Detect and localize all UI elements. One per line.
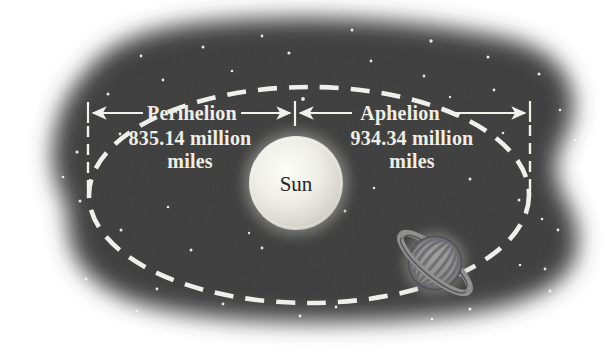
star — [493, 89, 496, 92]
star — [85, 278, 88, 281]
star — [541, 218, 544, 221]
aphelion-unit: miles — [389, 150, 434, 172]
star — [136, 310, 139, 313]
star — [544, 268, 547, 271]
aphelion-title: Aphelion — [360, 102, 439, 125]
star — [287, 51, 290, 54]
star — [370, 60, 373, 63]
star — [449, 96, 451, 98]
star — [469, 178, 472, 181]
star — [431, 318, 434, 321]
orbit-diagram: Sun Perihelion 835.14 million miles Aphe… — [0, 0, 612, 353]
star — [469, 308, 472, 311]
star — [574, 139, 576, 141]
star — [557, 229, 560, 232]
star — [119, 133, 122, 136]
star — [301, 97, 305, 101]
star — [261, 247, 264, 250]
star — [559, 109, 562, 112]
star — [162, 79, 165, 82]
star — [120, 229, 123, 232]
star — [549, 290, 552, 293]
star — [79, 200, 82, 203]
star — [248, 232, 250, 234]
star — [167, 206, 170, 209]
star — [231, 70, 234, 73]
star — [502, 132, 505, 135]
star — [518, 199, 521, 202]
star — [335, 306, 338, 309]
star — [222, 303, 225, 306]
perihelion-unit: miles — [167, 150, 212, 172]
aphelion-value: 934.34 million — [351, 127, 474, 149]
star — [519, 264, 522, 267]
star — [299, 315, 302, 318]
star — [107, 93, 110, 96]
star — [62, 176, 65, 179]
star — [373, 187, 376, 190]
star — [55, 244, 58, 247]
sun-label: Sun — [280, 172, 313, 196]
star — [75, 150, 78, 153]
orbit-diagram-canvas: Sun Perihelion 835.14 million miles Aphe… — [0, 0, 612, 353]
perihelion-title: Perihelion — [147, 102, 237, 124]
star — [351, 29, 354, 32]
star — [429, 39, 432, 42]
perihelion-value: 835.14 million — [129, 127, 252, 149]
star — [190, 249, 193, 252]
star — [538, 73, 541, 76]
star — [487, 56, 490, 59]
star — [202, 46, 205, 49]
star — [423, 75, 426, 78]
star — [261, 35, 264, 38]
star — [156, 288, 159, 291]
star — [140, 55, 143, 58]
